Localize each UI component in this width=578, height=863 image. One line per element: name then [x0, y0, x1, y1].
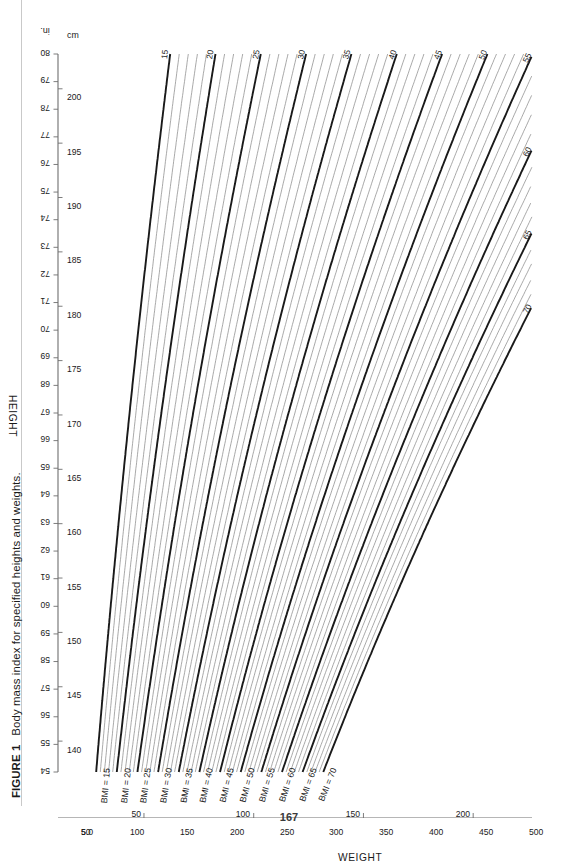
height-tick-label-in: 78 — [40, 103, 50, 113]
height-tick-label-in: 80 — [40, 48, 50, 58]
page-number: 167 — [0, 811, 578, 823]
bmi-line — [96, 54, 170, 772]
height-tick-label-in: 74 — [40, 213, 50, 223]
height-tick-label-cm: 165 — [67, 473, 81, 483]
bmi-line — [212, 54, 424, 772]
weight-tick-label-lb: 300 — [330, 827, 344, 837]
bmi-end-label: 25 — [250, 49, 262, 60]
bmi-line — [171, 54, 334, 772]
bmi-end-label: 15 — [159, 49, 170, 59]
height-tick-label-cm: 160 — [67, 527, 81, 537]
height-tick-label-in: 67 — [40, 407, 50, 417]
height-unit-cm: cm — [67, 30, 79, 40]
bmi-line — [286, 167, 532, 772]
bmi-line — [241, 54, 488, 772]
height-tick-label-in: 77 — [40, 130, 50, 140]
height-tick-label-in: 70 — [40, 324, 50, 334]
height-tick-label-cm: 170 — [67, 419, 81, 429]
height-tick-label-in: 64 — [40, 489, 50, 499]
height-tick-label-cm: 195 — [67, 147, 81, 157]
height-tick-label-cm: 155 — [67, 582, 81, 592]
height-tick-label-in: 71 — [40, 296, 50, 306]
weight-tick-label-lb: 350 — [379, 827, 393, 837]
weight-tick-label-lb: 450 — [479, 827, 493, 837]
height-tick-label-in: 63 — [40, 517, 50, 527]
height-tick-label-cm: 180 — [67, 310, 81, 320]
height-tick-label-cm: 140 — [67, 745, 81, 755]
height-tick-label-cm: 150 — [67, 636, 81, 646]
weight-tick-label-lb: 500 — [529, 827, 543, 837]
height-tick-label-in: 55 — [40, 738, 50, 748]
height-tick-label-in: 68 — [40, 379, 50, 389]
chart-canvas: 5455565758596061626364656667686970717273… — [24, 12, 554, 818]
bmi-line — [278, 134, 531, 772]
bmi-nomogram: 5455565758596061626364656667686970717273… — [24, 12, 554, 818]
bmi-line — [220, 54, 442, 772]
height-tick-label-in: 57 — [40, 683, 50, 693]
figure-number: FIGURE 1 — [10, 745, 22, 798]
height-tick-label-in: 72 — [40, 269, 50, 279]
height-tick-label-in: 73 — [40, 241, 50, 251]
height-tick-label-cm: 175 — [67, 364, 81, 374]
bmi-line — [323, 308, 531, 772]
bmi-line — [282, 151, 532, 772]
weight-tick-label-lb: 400 — [429, 827, 443, 837]
height-tick-label-in: 65 — [40, 462, 50, 472]
bmi-line — [179, 54, 352, 772]
height-tick-label-in: 54 — [40, 766, 50, 776]
nomogram-svg — [24, 12, 554, 818]
figure-caption-text: Body mass index for specified heights an… — [10, 472, 22, 735]
height-tick-label-in: 69 — [40, 351, 50, 361]
height-tick-label-in: 76 — [40, 158, 50, 168]
height-tick-label-in: 79 — [40, 75, 50, 85]
height-tick-label-cm: 185 — [67, 255, 81, 265]
height-tick-label-cm: 190 — [67, 201, 81, 211]
height-tick-label-in: 59 — [40, 628, 50, 638]
height-unit-in: in. — [40, 26, 49, 36]
weight-axis-title: WEIGHT — [338, 852, 382, 863]
height-tick-label-in: 60 — [40, 600, 50, 610]
bmi-line — [315, 280, 531, 772]
bmi-line — [121, 54, 225, 772]
height-tick-label-cm: 200 — [67, 92, 81, 102]
bmi-line — [290, 187, 530, 772]
height-tick-label-in: 62 — [40, 545, 50, 555]
height-tick-label-cm: 145 — [67, 690, 81, 700]
bmi-line — [125, 54, 234, 772]
height-tick-label-in: 56 — [40, 710, 50, 720]
bmi-line — [232, 54, 469, 772]
height-axis-title: HEIGHT — [7, 395, 18, 437]
weight-unit-lb: 5.0 — [81, 827, 93, 837]
height-tick-label-in: 66 — [40, 434, 50, 444]
height-tick-label-in: 75 — [40, 186, 50, 196]
height-tick-label-in: 61 — [40, 572, 50, 582]
height-tick-label-in: 58 — [40, 655, 50, 665]
